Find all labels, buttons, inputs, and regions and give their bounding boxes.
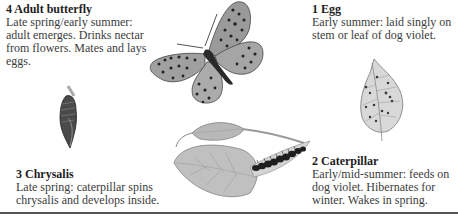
caption-text: Late spring: caterpillar spins chrysalis… — [16, 181, 166, 207]
caption-adult-butterfly: 4 Adult butterfly Late spring/early summ… — [6, 3, 156, 68]
leaf-with-eggs-icon — [360, 55, 430, 145]
lifecycle-diagram: 4 Adult butterfly Late spring/early summ… — [0, 0, 458, 221]
caption-chrysalis: 3 Chrysalis Late spring: caterpillar spi… — [16, 168, 166, 207]
caption-text: Early summer: laid singly on stem or lea… — [312, 16, 458, 42]
butterfly-icon — [145, 0, 270, 110]
caption-text: Late spring/early summer: adult emerges.… — [6, 16, 156, 68]
bottom-rule — [0, 212, 458, 214]
caterpillar-on-leaves-icon — [170, 115, 340, 205]
caption-egg: 1 Egg Early summer: laid singly on stem … — [312, 3, 458, 42]
chrysalis-icon — [50, 82, 90, 152]
